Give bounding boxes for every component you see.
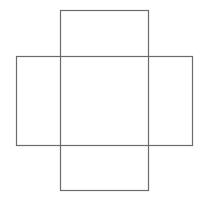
horizontal-rectangle	[17, 57, 193, 146]
diagram-canvas	[0, 0, 202, 203]
cross-diagram	[0, 0, 202, 203]
vertical-rectangle	[61, 11, 149, 191]
